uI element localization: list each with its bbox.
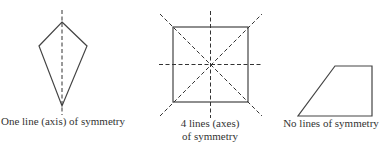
square-figure: 4 lines (axes) of symmetry	[159, 11, 262, 142]
trapezoid-figure: No lines of symmetry	[283, 66, 379, 129]
trapezoid-shape	[298, 66, 372, 116]
trapezoid-caption: No lines of symmetry	[283, 117, 379, 129]
kite-figure: One line (axis) of symmetry	[1, 10, 126, 128]
square-caption-line2: of symmetry	[182, 130, 238, 142]
kite-shape	[39, 22, 87, 106]
square-caption-line1: 4 lines (axes)	[181, 117, 240, 130]
symmetry-diagram: One line (axis) of symmetry 4 lines (axe…	[0, 0, 384, 144]
kite-caption: One line (axis) of symmetry	[1, 115, 126, 128]
